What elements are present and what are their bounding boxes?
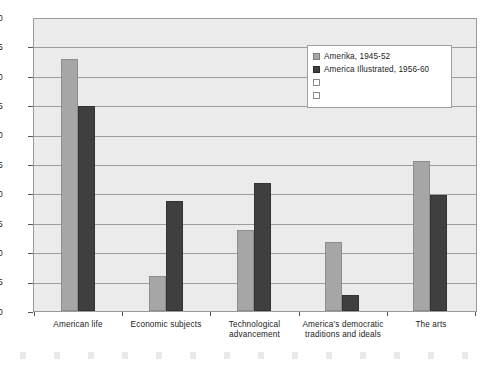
y-tick-label-45: 45 [0,43,3,52]
bar-america-illustrated-technological-advancement [254,183,271,311]
y-tick-label-20: 20 [0,190,3,199]
x-axis-label-technological-advancement: Technological advancement [210,320,299,340]
x-axis-label-line: America's democratic [297,320,389,330]
legend-swatch-empty-icon [313,79,320,86]
y-tick-label-10: 10 [0,249,3,258]
y-tick-label-15: 15 [0,220,3,229]
bar-chart: 50 45 40 35 30 25 20 15 10 5 0 [0,0,485,365]
x-axis-label-line: traditions and ideals [297,330,389,340]
legend-item-america-illustrated: America Illustrated, 1956-60 [313,63,446,75]
legend-item-empty-2 [313,89,446,101]
y-tick-label-30: 30 [0,131,3,140]
y-tick-label-35: 35 [0,102,3,111]
y-tick-label-50: 50 [0,14,3,23]
x-axis-label-democratic-traditions: America's democratic traditions and idea… [297,320,389,340]
y-tick-label-40: 40 [0,73,3,82]
bar-america-illustrated-democratic-traditions [342,295,359,311]
x-axis-label-line: Technological [210,320,299,330]
x-axis-label-american-life: American life [34,320,122,330]
x-axis-label-the-arts: The arts [387,320,475,330]
legend-swatch-empty-icon [313,92,320,99]
legend-item-empty-1 [313,76,446,88]
bar-amerika-technological-advancement [237,230,254,311]
legend-swatch-dark-icon [313,66,320,73]
y-tick-label-25: 25 [0,161,3,170]
chart-legend: Amerika, 1945-52 America Illustrated, 19… [307,45,452,108]
bar-america-illustrated-american-life [78,106,95,311]
bar-group-american-life [61,19,95,311]
bar-group-technological-advancement [237,19,271,311]
bar-group-economic-subjects [149,19,183,311]
y-tick-label-0: 0 [0,308,3,317]
x-tick-mark-3 [299,312,300,316]
x-axis-label-economic-subjects: Economic subjects [122,320,210,330]
x-axis-label-line: advancement [210,330,299,340]
bar-amerika-democratic-traditions [325,242,342,311]
legend-swatch-light-icon [313,53,320,60]
bar-amerika-economic-subjects [149,276,166,311]
y-tick-label-5: 5 [0,278,3,287]
x-tick-mark-0 [34,312,35,316]
bar-america-illustrated-the-arts [430,195,447,311]
legend-label-amerika: Amerika, 1945-52 [324,52,390,61]
y-tick-mark-0 [28,312,33,313]
bar-amerika-the-arts [413,161,430,312]
x-axis-label-line: The arts [387,320,475,330]
legend-label-america-illustrated: America Illustrated, 1956-60 [324,65,429,74]
x-axis-label-line: American life [34,320,122,330]
x-axis-label-line: Economic subjects [122,320,210,330]
bar-amerika-american-life [61,59,78,311]
x-tick-mark-5 [475,312,476,316]
legend-item-amerika: Amerika, 1945-52 [313,50,446,62]
x-tick-mark-1 [122,312,123,316]
x-tick-mark-4 [387,312,388,316]
bar-america-illustrated-economic-subjects [166,201,183,312]
x-tick-mark-2 [210,312,211,316]
scan-bleed-artifact [20,352,470,359]
